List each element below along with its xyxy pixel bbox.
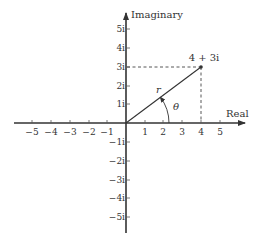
complex-point: [199, 65, 203, 69]
vector-r: [126, 67, 201, 123]
tick-label-real: −4: [44, 127, 58, 137]
tick-label-real: 1: [142, 127, 148, 137]
complex-plane-diagram: −5 −4 −3 −2 −1 1 2 3 4 5 5i 4i 3i 2i 1i …: [0, 0, 254, 242]
point-label: 4 + 3i: [189, 52, 220, 63]
tick-label-real: −2: [82, 127, 95, 137]
angle-theta-label: θ: [173, 101, 179, 112]
tick-label-imaginary: 5i: [116, 24, 125, 34]
tick-label-imaginary: −4i: [109, 193, 125, 203]
vector-r-label: r: [156, 84, 162, 95]
tick-label-real: 4: [198, 127, 204, 137]
tick-label-real: 5: [217, 127, 223, 137]
tick-label-imaginary: −3i: [109, 175, 125, 185]
tick-label-imaginary: 4i: [116, 43, 125, 53]
tick-label-real: −3: [63, 127, 77, 137]
tick-label-imaginary: −5i: [109, 212, 125, 222]
tick-label-imaginary: −1i: [109, 137, 125, 147]
tick-label-real: −1: [100, 127, 113, 137]
tick-label-imaginary: 2i: [116, 81, 125, 91]
angle-arc-icon: [160, 97, 169, 123]
imaginary-axis-label: Imaginary: [131, 9, 183, 20]
tick-label-imaginary: 3i: [116, 62, 125, 72]
tick-label-real: −5: [25, 127, 39, 137]
tick-label-imaginary: −2i: [109, 156, 125, 166]
real-axis-label: Real: [226, 108, 249, 119]
real-tick-labels: −5 −4 −3 −2 −1 1 2 3 4 5: [25, 127, 223, 137]
tick-label-real: 2: [160, 127, 166, 137]
tick-label-real: 3: [179, 127, 185, 137]
tick-label-imaginary: 1i: [116, 99, 125, 109]
